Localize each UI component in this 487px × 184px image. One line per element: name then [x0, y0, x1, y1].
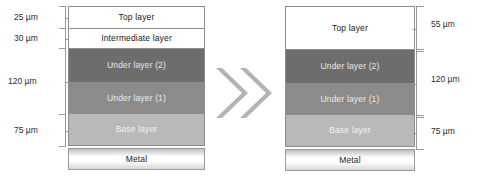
layer-metal-left: Metal	[68, 148, 205, 170]
layer-under2-right: Under layer (2)	[285, 49, 415, 84]
brace-top-left	[59, 6, 66, 29]
after-stack: Top layer Under layer (2) Under layer (1…	[285, 6, 415, 171]
layer-intermediate-left: Intermediate layer	[68, 28, 205, 49]
layer-under1-right-label: Under layer (1)	[321, 95, 380, 104]
layer-base-left: Base layer	[68, 113, 205, 146]
layer-top-right: Top layer	[285, 6, 415, 50]
layer-under2-right-label: Under layer (2)	[321, 62, 380, 71]
brace-base-left	[59, 114, 66, 147]
layer-base-right: Base layer	[285, 114, 415, 147]
layer-structure-diagram: Top layer Intermediate layer Under layer…	[0, 0, 487, 184]
brace-under-right	[416, 49, 424, 118]
layer-under1-right: Under layer (1)	[285, 83, 415, 115]
brace-under-left	[59, 48, 66, 115]
layer-under1-left: Under layer (1)	[68, 82, 205, 114]
before-stack: Top layer Intermediate layer Under layer…	[68, 6, 205, 170]
layer-metal-left-label: Metal	[126, 155, 148, 164]
layer-metal-right: Metal	[285, 149, 415, 171]
brace-top-right	[416, 6, 424, 52]
double-chevron-right-icon	[212, 62, 274, 124]
layer-under2-left-label: Under layer (2)	[107, 61, 166, 70]
layer-top-left: Top layer	[68, 6, 205, 29]
brace-intermediate-left	[59, 28, 66, 49]
layer-under2-left: Under layer (2)	[68, 48, 205, 83]
layer-intermediate-left-label: Intermediate layer	[101, 34, 172, 43]
layer-base-right-label: Base layer	[329, 126, 371, 135]
brace-base-right	[416, 115, 424, 150]
layer-under1-left-label: Under layer (1)	[107, 94, 166, 103]
layer-metal-right-label: Metal	[339, 156, 361, 165]
layer-base-left-label: Base layer	[116, 125, 158, 134]
layer-top-right-label: Top layer	[332, 24, 368, 33]
layer-top-left-label: Top layer	[119, 13, 155, 22]
